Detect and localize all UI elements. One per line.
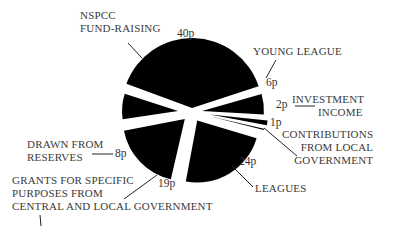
label-young-league: YOUNG LEAGUE [253, 45, 342, 58]
label-reserves: DRAWN FROM RESERVES [27, 138, 104, 164]
label-leagues: LEAGUES [255, 182, 307, 195]
stray-mark [40, 215, 41, 226]
value-young-league: 6p [266, 76, 278, 88]
value-nspcc: 40p [177, 27, 194, 39]
value-investment: 2p [276, 98, 288, 110]
pie-slice-nspcc-fund-raising [126, 38, 258, 108]
leader-nspcc [128, 43, 142, 58]
value-reserves: 8p [115, 147, 127, 159]
value-contributions: 1p [270, 116, 282, 128]
leader-leagues [232, 166, 253, 187]
value-leagues: 24p [239, 155, 256, 167]
label-contributions: CONTRIBUTIONS FROM LOCAL GOVERNMENT [282, 128, 373, 167]
value-grants: 19p [158, 177, 175, 189]
label-investment: INVESTMENT INCOME [292, 93, 364, 119]
pie-slice-investment-income [210, 115, 268, 126]
label-nspcc: NSPCC FUND-RAISING [80, 9, 161, 35]
label-grants: GRANTS FOR SPECIFIC PURPOSES FROM CENTRA… [12, 174, 213, 213]
pie-slice-grants-for-specific-purposes-from-central-and-local-government [124, 119, 185, 179]
